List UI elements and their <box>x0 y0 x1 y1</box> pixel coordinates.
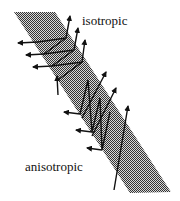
isotropic-label: isotropic <box>82 13 128 29</box>
anisotropic-label: anisotropic <box>25 159 83 175</box>
